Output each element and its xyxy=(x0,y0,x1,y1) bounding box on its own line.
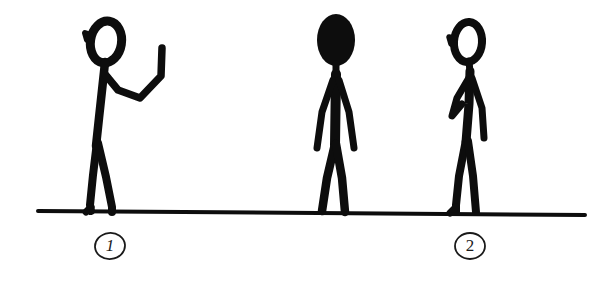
figure-2-right-leg xyxy=(336,144,345,212)
figure-3 xyxy=(449,21,484,213)
callout-1-label: 1 xyxy=(106,236,115,255)
figure-2-head xyxy=(317,14,355,66)
figure-2-torso xyxy=(335,74,336,145)
sketch-svg: 1 2 xyxy=(0,0,591,281)
callout-1[interactable]: 1 xyxy=(94,232,127,261)
callout-2-label: 2 xyxy=(466,236,475,255)
figure-3-head xyxy=(449,21,483,63)
figure-1 xyxy=(85,19,162,212)
figure-1-front-leg xyxy=(98,143,112,212)
figure-1-nose-icon xyxy=(85,33,91,41)
callout-2[interactable]: 2 xyxy=(455,233,485,259)
figure-3-front-leg xyxy=(468,141,476,212)
figure-3-straight-arm xyxy=(472,78,484,138)
figure-1-back-leg xyxy=(90,142,97,211)
figure-2-right-arm xyxy=(339,80,354,148)
figure-2 xyxy=(317,14,355,212)
figure-3-back-leg xyxy=(456,140,466,212)
figure-2-left-leg xyxy=(322,144,335,211)
figure-3-head-outline xyxy=(453,21,484,63)
ground-line xyxy=(38,211,585,215)
sketch-canvas: 1 2 xyxy=(0,0,591,281)
